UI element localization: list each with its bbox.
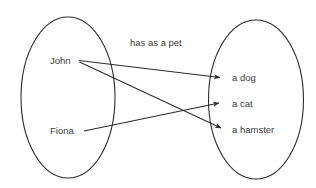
relation-label: has as a pet xyxy=(130,38,182,48)
codomain-node-a-hamster: a hamster xyxy=(232,125,274,135)
domain-node-john: John xyxy=(50,56,71,66)
mapping-arrow-fiona-a-cat xyxy=(84,103,219,131)
diagram-graphics xyxy=(0,0,316,188)
domain-node-fiona: Fiona xyxy=(50,126,74,136)
codomain-node-a-dog: a dog xyxy=(232,73,256,83)
codomain-ellipse xyxy=(209,20,304,179)
mapping-arrow-john-a-hamster xyxy=(80,62,222,128)
domain-ellipse xyxy=(21,17,115,178)
mapping-arrow-john-a-dog xyxy=(79,61,220,78)
diagram-canvas: has as a pet John Fiona a dog a cat a ha… xyxy=(0,0,316,188)
codomain-node-a-cat: a cat xyxy=(232,99,253,109)
